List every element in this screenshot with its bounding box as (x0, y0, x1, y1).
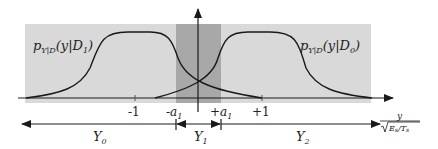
region-label-y1: Y1 (194, 129, 208, 146)
x-axis-label: y Es/Ts (380, 111, 420, 133)
tick-label-minus-one: -1 (128, 105, 140, 119)
tick-label-plus-a1: +a1 (210, 105, 232, 121)
svg-text:Es/Ts: Es/Ts (388, 124, 409, 133)
region-label-y0: Y0 (93, 129, 107, 146)
svg-text:y: y (396, 111, 403, 121)
region-label-y2: Y2 (296, 129, 310, 146)
tick-label-plus-one: +1 (252, 105, 270, 119)
decision-regions-diagram: pY|D(y|D1) pY|D(y|D0) -1 +1 -a1 +a1 Y0 Y… (0, 0, 438, 149)
tick-label-minus-a1: -a1 (166, 105, 182, 121)
